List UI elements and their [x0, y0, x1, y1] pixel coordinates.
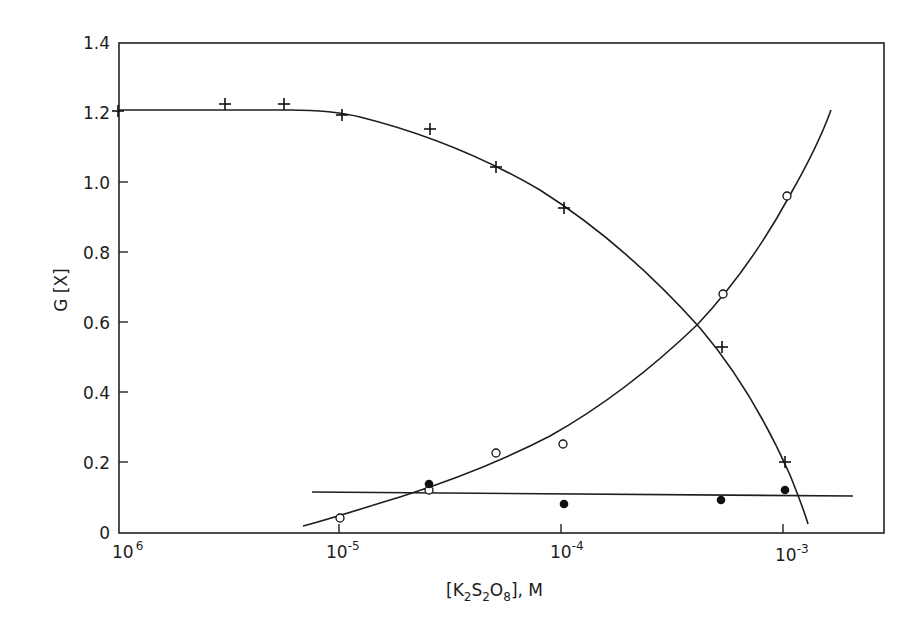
open-circle-marker	[492, 449, 500, 457]
y-tick-label: 1.0	[83, 173, 110, 193]
x-tick-label: 10-5	[326, 539, 360, 562]
x-axis-ticks	[339, 524, 783, 533]
plus-markers	[112, 98, 791, 468]
y-tick-label: 1.2	[83, 103, 110, 123]
plus-marker	[112, 105, 124, 117]
y-axis-title: G [X]	[51, 268, 71, 312]
x-tick-label: 10-4	[550, 539, 584, 562]
x-tick-label: 106	[112, 539, 143, 562]
y-tick-label: 0.4	[83, 383, 110, 403]
filled-circle-marker	[781, 486, 790, 495]
filled-circle-marker	[425, 480, 434, 489]
y-tick-label: 1.4	[83, 33, 110, 53]
open-circle-marker	[783, 192, 791, 200]
filled-circle-marker	[717, 496, 726, 505]
plus-marker	[278, 98, 290, 110]
x-tick-label: 10-3	[775, 542, 809, 565]
plus-marker	[779, 456, 791, 468]
y-tick-label: 0	[99, 523, 110, 543]
chart: 0 0.2 0.4 0.6 0.8 1.0 1.2 1.4 106 10-5 1…	[0, 0, 923, 640]
plus-marker	[424, 123, 436, 135]
y-tick-label: 0.2	[83, 453, 110, 473]
open-circle-marker	[559, 440, 567, 448]
plus-marker	[490, 161, 502, 173]
filled-circle-series-fit-line	[312, 492, 853, 496]
filled-circle-marker	[560, 500, 569, 509]
plus-marker	[336, 109, 348, 121]
open-circle-marker	[719, 290, 727, 298]
plus-marker	[219, 98, 231, 110]
x-axis-title: [K2S2O8], M	[446, 580, 543, 604]
y-tick-label: 0.6	[83, 313, 110, 333]
x-axis-tick-labels: 106 10-5 10-4 10-3	[112, 539, 809, 565]
open-circle-marker	[336, 514, 344, 522]
open-circle-series-fit-curve	[303, 110, 831, 526]
y-axis-ticks	[119, 182, 128, 462]
y-tick-label: 0.8	[83, 243, 110, 263]
y-axis-tick-labels: 0 0.2 0.4 0.6 0.8 1.0 1.2 1.4	[83, 33, 110, 543]
